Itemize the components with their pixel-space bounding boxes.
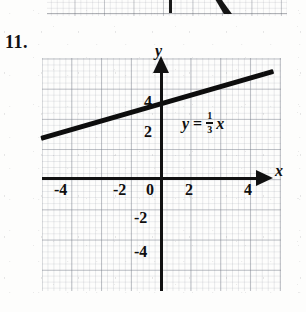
y-tick-label-2: 2: [144, 124, 152, 140]
x-tick-label-4: 4: [244, 182, 252, 198]
equation-annotation: y = 1 3 x: [182, 112, 224, 136]
fraction-numerator: 1: [207, 111, 212, 122]
equation-variable: x: [216, 115, 224, 133]
fragment-baseline: [47, 13, 287, 14]
equation-fraction-one-third: 1 3: [206, 111, 213, 135]
x-tick-label-neg2: -2: [113, 182, 126, 198]
y-axis: [160, 68, 163, 291]
x-axis-label: x: [275, 162, 283, 180]
problem-number-label: 11.: [5, 32, 28, 53]
y-tick-label-4: 4: [144, 94, 152, 110]
x-axis: [42, 177, 260, 180]
x-axis-arrow-icon: [256, 170, 273, 186]
y-axis-label: y: [155, 42, 162, 60]
origin-label: 0: [146, 182, 154, 198]
y-tick-label-neg4: -4: [134, 244, 147, 260]
fraction-denominator: 3: [207, 124, 212, 135]
fragment-vertical-axis-mark: [169, 0, 172, 13]
previous-figure-fragment: [47, 0, 287, 16]
equation-equals-sign: =: [193, 115, 202, 133]
coordinate-graph: x y -4 -2 2 4 0 4 2 -2 -4 y = 1 3 x: [42, 58, 281, 291]
x-tick-label-2: 2: [185, 182, 193, 198]
y-tick-label-neg2: -2: [134, 210, 147, 226]
x-tick-label-neg4: -4: [54, 182, 67, 198]
scanned-page: 11. x y -4 -2 2 4 0 4 2 -2 -4 y = 1: [0, 0, 306, 312]
equation-lhs: y: [182, 115, 189, 133]
